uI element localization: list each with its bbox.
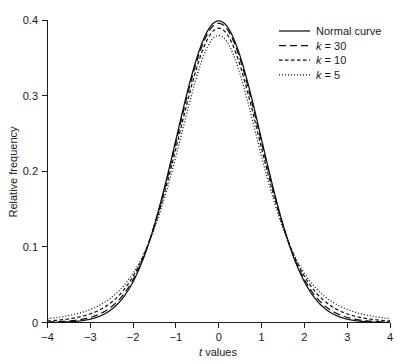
x-axis-title: t values xyxy=(199,346,237,358)
legend-value: = 5 xyxy=(322,69,341,81)
x-tick-label: 2 xyxy=(301,331,307,343)
x-tick-label: −1 xyxy=(170,331,183,343)
x-tick-label: −4 xyxy=(41,331,54,343)
t-distribution-line-chart: 00.10.20.30.4 −4−3−2−101234 Relative fre… xyxy=(0,0,404,364)
x-tick-label: −2 xyxy=(127,331,140,343)
x-tick-label: 1 xyxy=(259,331,265,343)
y-tick-label: 0.4 xyxy=(23,14,38,26)
x-tick-label: 0 xyxy=(216,331,222,343)
chart-figure: 00.10.20.30.4 −4−3−2−101234 Relative fre… xyxy=(0,0,404,364)
x-tick-label: 3 xyxy=(344,331,350,343)
x-tick-label: −3 xyxy=(84,331,97,343)
legend-label-3[interactable]: k = 5 xyxy=(316,69,340,81)
legend-value: = 10 xyxy=(322,54,347,66)
y-tick-label: 0.3 xyxy=(23,90,38,102)
legend-label-2[interactable]: k = 10 xyxy=(316,54,346,66)
legend-label-0[interactable]: Normal curve xyxy=(316,25,381,37)
y-tick-label: 0.1 xyxy=(23,241,38,253)
y-tick-label: 0.2 xyxy=(23,165,38,177)
x-axis-title-rest: values xyxy=(202,346,237,358)
legend-label-1[interactable]: k = 30 xyxy=(316,40,346,52)
legend-value: = 30 xyxy=(322,40,347,52)
y-tick-label: 0 xyxy=(32,317,38,329)
y-axis-title: Relative frequency xyxy=(7,126,19,218)
x-tick-label: 4 xyxy=(387,331,393,343)
